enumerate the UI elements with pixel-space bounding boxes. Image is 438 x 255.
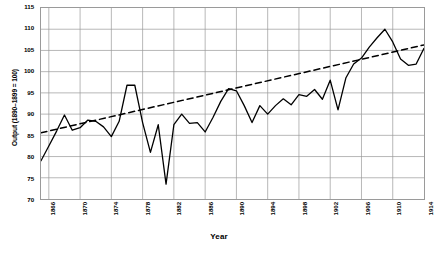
x-tick-label: 1902 [333,202,339,215]
x-tick-label: 1914 [428,202,434,215]
y-tick-label: 90 [27,111,34,117]
y-tick-label: 70 [27,197,34,203]
x-axis-title: Year [0,232,438,241]
x-axis-tick-labels: 1866187018741878188218861890189418981902… [40,202,425,232]
y-tick-label: 85 [27,133,34,139]
y-tick-label: 105 [24,47,34,53]
y-tick-label: 115 [24,4,34,10]
y-tick-label: 95 [27,90,34,96]
x-tick-label: 1890 [239,202,245,215]
y-tick-label: 110 [24,25,34,31]
x-tick-label: 1882 [176,202,182,215]
x-tick-label: 1910 [396,202,402,215]
chart-figure: Output (1890–1899 = 100) 707580859095100… [0,0,438,255]
x-tick-label: 1874 [113,202,119,215]
x-tick-label: 1878 [145,202,151,215]
plot-area [40,7,425,200]
output-line [41,29,424,184]
x-tick-label: 1866 [50,202,56,215]
data-series-layer [41,8,424,199]
y-axis-tick-labels: 707580859095100105110115 [0,0,38,207]
x-tick-label: 1898 [302,202,308,215]
y-tick-label: 80 [27,154,34,160]
trend-line [41,45,424,133]
x-tick-label: 1886 [208,202,214,215]
x-tick-label: 1906 [365,202,371,215]
y-tick-label: 100 [24,68,34,74]
x-tick-label: 1894 [270,202,276,215]
x-tick-label: 1870 [82,202,88,215]
y-tick-label: 75 [27,175,34,181]
